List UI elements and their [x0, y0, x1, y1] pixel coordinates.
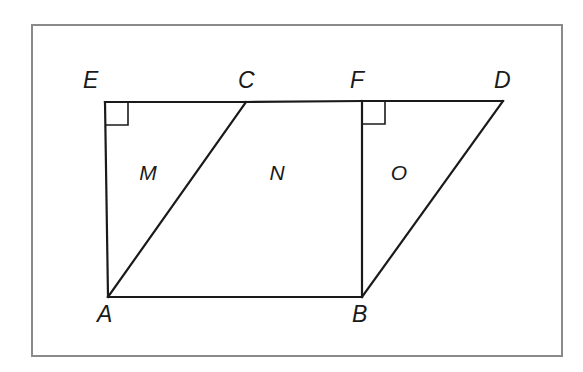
vertex-label-E: E	[83, 67, 99, 93]
vertex-label-B: B	[352, 301, 367, 327]
region-label-N: N	[269, 161, 285, 184]
geometry-figure: E C F D A B MNO	[0, 0, 583, 372]
vertex-label-C: C	[238, 67, 255, 93]
vertex-label-F: F	[350, 67, 366, 93]
figure-background	[0, 0, 583, 372]
region-label-M: M	[139, 161, 157, 184]
vertex-label-D: D	[494, 67, 511, 93]
figure-canvas: E C F D A B MNO	[0, 0, 583, 372]
segment-CF	[246, 101, 362, 102]
vertex-label-A: A	[95, 301, 112, 327]
region-label-O: O	[391, 161, 407, 184]
